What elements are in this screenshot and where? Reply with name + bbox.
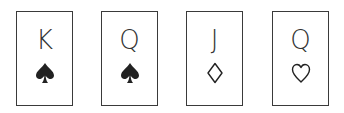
heart-icon <box>291 62 311 84</box>
card-rank: Q <box>102 27 157 53</box>
card-rank: Q <box>273 27 328 53</box>
card-queen-of-spades: Q <box>101 11 158 106</box>
card-king-of-spades: K <box>16 11 73 106</box>
spade-icon <box>35 62 55 84</box>
card-queen-of-hearts: Q <box>272 11 329 106</box>
card-jack-of-diamonds: J <box>186 11 243 106</box>
spade-icon <box>120 62 140 84</box>
card-rank: K <box>17 27 72 53</box>
card-rank: J <box>187 27 242 53</box>
diamond-icon <box>205 62 225 84</box>
